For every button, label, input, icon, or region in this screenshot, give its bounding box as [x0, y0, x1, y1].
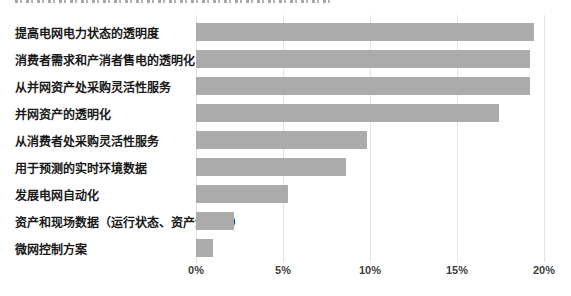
category-label: 微网控制方案	[15, 235, 195, 262]
bar	[196, 239, 213, 257]
x-axis-tick-label: 10%	[359, 264, 381, 276]
clipped-caption-text-fragment	[15, 0, 333, 3]
bar-row	[196, 73, 571, 100]
category-label: 并网资产的透明化	[15, 100, 195, 127]
bar	[196, 185, 288, 203]
x-axis-tick-label: 15%	[446, 264, 468, 276]
category-label: 从消费者处采购灵活性服务	[15, 127, 195, 154]
bar	[196, 77, 530, 95]
bars-container	[196, 19, 571, 262]
bar-row	[196, 46, 571, 73]
bar-row	[196, 154, 571, 181]
category-label: 消费者需求和产消者售电的透明化	[15, 46, 195, 73]
bar	[196, 131, 367, 149]
bar	[196, 104, 499, 122]
bar-row	[196, 181, 571, 208]
x-axis: 0%5%10%15%20%	[196, 264, 571, 284]
category-label: 用于预测的实时环境数据	[15, 154, 195, 181]
x-axis-tick-label: 20%	[533, 264, 555, 276]
bar	[196, 50, 530, 68]
bar	[196, 23, 534, 41]
bar-row	[196, 208, 571, 235]
survey-bar-chart-figure: 提高电网电力状态的透明度消费者需求和产消者售电的透明化从并网资产处采购灵活性服务…	[0, 0, 571, 296]
category-label: 从并网资产处采购灵活性服务	[15, 73, 195, 100]
category-label: 资产和现场数据（运行状态、资产温度等）	[15, 208, 195, 235]
category-label: 发展电网自动化	[15, 181, 195, 208]
bar	[196, 158, 346, 176]
bar-row	[196, 127, 571, 154]
bar-row	[196, 235, 571, 262]
bar	[196, 212, 234, 230]
x-axis-tick-label: 5%	[275, 264, 291, 276]
bar-row	[196, 19, 571, 46]
bar-row	[196, 100, 571, 127]
x-axis-tick-label: 0%	[188, 264, 204, 276]
category-labels-column: 提高电网电力状态的透明度消费者需求和产消者售电的透明化从并网资产处采购灵活性服务…	[15, 19, 195, 262]
category-label: 提高电网电力状态的透明度	[15, 19, 195, 46]
